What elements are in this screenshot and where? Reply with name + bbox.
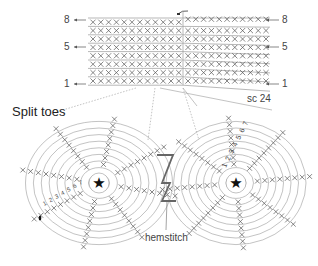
stitch-x-icon xyxy=(90,70,95,75)
stitch-x-icon xyxy=(148,152,153,157)
row-label-left-1: 1 xyxy=(64,79,70,89)
stitch-x-icon xyxy=(106,45,111,50)
round-number: 7 xyxy=(241,120,249,126)
row-label-right-8: 8 xyxy=(282,15,288,25)
panel-row-line xyxy=(183,26,270,27)
round-number: 1 xyxy=(220,162,228,168)
stitch-x-icon xyxy=(228,129,233,134)
stitch-x-icon xyxy=(131,224,136,229)
stitch-x-icon xyxy=(217,17,222,22)
stitch-x-icon xyxy=(106,78,111,83)
stitch-x-icon xyxy=(236,206,241,211)
stitch-x-icon xyxy=(252,161,257,166)
arrow-head-icon xyxy=(74,83,77,86)
stitch-x-icon xyxy=(145,36,150,41)
stitch-x-icon xyxy=(161,70,166,75)
stitch-x-icon xyxy=(153,45,158,50)
stitch-x-icon xyxy=(122,53,127,58)
stitch-x-icon xyxy=(129,45,134,50)
stitch-x-icon xyxy=(193,45,198,50)
stitch-x-icon xyxy=(185,53,190,58)
stitch-x-icon xyxy=(90,62,95,67)
stitch-x-icon xyxy=(266,146,271,151)
stitch-x-icon xyxy=(193,62,198,67)
stitch-x-icon xyxy=(168,62,173,67)
stitch-x-icon xyxy=(224,28,229,33)
stitch-x-icon xyxy=(255,179,260,184)
stitch-x-icon xyxy=(193,78,198,83)
stitch-x-icon xyxy=(145,20,150,25)
stitch-x-icon xyxy=(268,205,273,210)
stitch-x-icon xyxy=(270,177,275,182)
stitch-x-icon xyxy=(248,70,253,75)
stitch-x-icon xyxy=(161,53,166,58)
stitch-x-icon xyxy=(194,152,199,157)
stitch-x-icon xyxy=(54,126,59,131)
stitch-x-icon xyxy=(232,78,237,83)
stitch-x-icon xyxy=(157,191,162,196)
stitch-x-icon xyxy=(122,45,127,50)
arrow-head-icon xyxy=(74,19,77,22)
guide-line xyxy=(183,88,197,106)
start-marker xyxy=(39,216,42,221)
stitch-x-icon xyxy=(90,28,95,33)
stitch-x-icon xyxy=(215,200,220,205)
stitch-x-icon xyxy=(240,36,245,41)
stitch-x-icon xyxy=(137,78,142,83)
stitch-x-icon xyxy=(190,184,195,189)
stitch-x-icon xyxy=(122,28,127,33)
stitch-x-icon xyxy=(217,62,222,67)
stitch-x-icon xyxy=(137,36,142,41)
stitch-x-icon xyxy=(276,135,281,140)
stitch-x-icon xyxy=(193,36,198,41)
stitch-x-icon xyxy=(273,209,278,214)
row-label-left-8: 8 xyxy=(64,15,70,25)
guide-line xyxy=(148,88,155,140)
stitch-x-icon xyxy=(256,28,261,33)
stitch-x-icon xyxy=(256,62,261,67)
stitch-x-icon xyxy=(201,45,206,50)
stitch-x-icon xyxy=(115,170,120,175)
stitch-x-icon xyxy=(129,28,134,33)
stitch-x-icon xyxy=(113,202,118,207)
stitch-x-icon xyxy=(87,219,92,224)
row-label-right-5: 5 xyxy=(282,42,288,52)
stitch-x-icon xyxy=(114,70,119,75)
stitch-x-icon xyxy=(168,36,173,41)
stitch-x-icon xyxy=(209,28,214,33)
round-number: 1 xyxy=(42,200,48,207)
stitch-x-icon xyxy=(182,144,187,149)
stitch-x-icon xyxy=(52,206,57,211)
stitch-x-icon xyxy=(256,17,261,22)
stitch-x-icon xyxy=(101,162,106,167)
stitch-x-icon xyxy=(168,28,173,33)
stitch-x-icon xyxy=(201,53,206,58)
stitch-x-icon xyxy=(98,20,103,25)
stitch-x-icon xyxy=(263,62,268,67)
stitch-x-icon xyxy=(209,62,214,67)
stitch-x-icon xyxy=(153,53,158,58)
stitch-x-icon xyxy=(86,225,91,230)
stitch-x-icon xyxy=(175,186,180,191)
stitch-x-icon xyxy=(90,53,95,58)
diagram-title: Split toes xyxy=(12,104,65,119)
stitch-x-icon xyxy=(98,45,103,50)
stitch-x-icon xyxy=(161,145,166,150)
stitch-x-icon xyxy=(122,70,127,75)
stitch-x-icon xyxy=(263,78,268,83)
stitch-x-icon xyxy=(110,123,115,128)
stitch-x-icon xyxy=(78,191,83,196)
stitch-x-icon xyxy=(122,78,127,83)
start-marker-dot xyxy=(177,13,180,15)
stitch-x-icon xyxy=(185,17,190,22)
stitch-x-icon xyxy=(28,169,33,174)
stitch-x-icon xyxy=(201,62,206,67)
stitch-x-icon xyxy=(145,62,150,67)
stitch-x-icon xyxy=(188,148,193,153)
stitch-x-icon xyxy=(71,195,76,200)
round-number: 5 xyxy=(66,186,72,193)
stitch-x-icon xyxy=(193,17,198,22)
stitch-x-icon xyxy=(292,175,297,180)
stitch-x-icon xyxy=(279,213,284,218)
stitch-x-icon xyxy=(168,78,173,83)
